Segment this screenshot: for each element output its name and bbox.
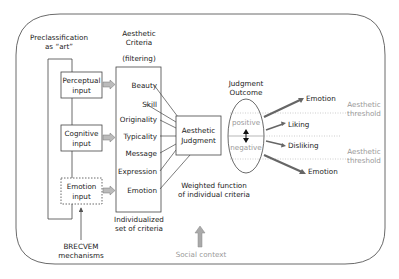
criterion-typicality: Typicality (122, 132, 157, 141)
criteria-footer-1: Individualized (114, 215, 164, 224)
criteria-footer-2: set of criteria (115, 224, 163, 233)
output-emotion-negative: Emotion (308, 167, 338, 176)
criterion-originality: Originality (120, 115, 158, 124)
outcome-label-2: Outcome (230, 88, 263, 97)
criterion-emotion: Emotion (127, 186, 157, 195)
criteria-header-3: (filtering) (122, 54, 156, 63)
weighted-label-1: Weighted function (181, 181, 247, 190)
criterion-skill: Skill (142, 100, 157, 109)
criteria-header-2: Criteria (126, 38, 153, 47)
perceptual-input-box: Perceptual input (61, 72, 102, 98)
preclassification-title-1: Preclassification (30, 33, 88, 42)
outcome-label-1: Judgment (228, 79, 264, 88)
outcome-positive: positive (232, 118, 261, 127)
threshold-label-2a: Aesthetic (347, 147, 381, 156)
svg-text:Cognitive: Cognitive (64, 129, 99, 138)
brecvem-label-1: BRECVEM (63, 242, 98, 251)
criterion-message: Message (125, 149, 157, 158)
svg-text:input: input (72, 139, 91, 148)
criterion-expression: Expression (118, 167, 157, 176)
svg-text:Emotion: Emotion (67, 182, 97, 191)
threshold-label-1b: threshold (347, 109, 381, 118)
criterion-beauty: Beauty (132, 81, 158, 90)
social-context-label: Social context (176, 250, 227, 259)
weighted-label-2: of individual criteria (178, 190, 250, 199)
block-arrow-icon (103, 80, 115, 195)
brecvem-label-2: mechanisms (58, 251, 104, 260)
preclassification-title-2: as “art” (45, 42, 73, 51)
judgment-label-2: Judgment (180, 136, 216, 145)
judgment-label-1: Aesthetic (182, 126, 216, 135)
social-context-arrow-icon (195, 226, 205, 247)
output-liking: Liking (288, 120, 309, 129)
svg-text:input: input (72, 86, 91, 95)
output-disliking: Disliking (288, 141, 319, 150)
emotion-input-box: Emotion input (61, 178, 102, 204)
criteria-header-1: Aesthetic (122, 29, 156, 38)
output-emotion-positive: Emotion (306, 94, 336, 103)
threshold-label-1a: Aesthetic (347, 100, 381, 109)
aesthetic-judgment-diagram: Preclassification as “art” Perceptual in… (0, 0, 399, 279)
threshold-label-2b: threshold (347, 156, 381, 165)
cognitive-input-box: Cognitive input (61, 125, 102, 151)
svg-text:Perceptual: Perceptual (62, 76, 100, 85)
svg-text:input: input (72, 192, 91, 201)
outcome-negative: negative (230, 143, 262, 152)
